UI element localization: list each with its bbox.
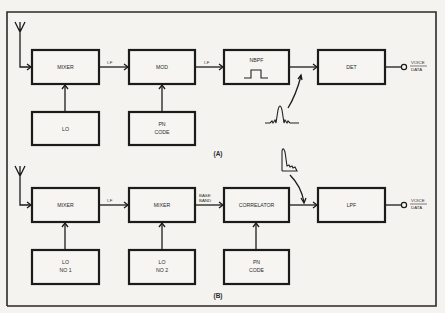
- mod-label: MOD: [156, 64, 168, 70]
- output-data-label: DATA: [411, 67, 422, 72]
- antenna-icon: [15, 22, 31, 70]
- panel-a-caption: (A): [213, 150, 222, 158]
- baseband-label-line2: BAND: [199, 198, 211, 203]
- pn-code-label-line2: CODE: [155, 129, 171, 135]
- pn-code-label-line1: PN: [158, 121, 165, 127]
- correlator-label: CORRELATOR: [239, 202, 275, 208]
- nbpf-block: [224, 50, 289, 84]
- antenna-icon: [15, 166, 31, 208]
- lpf-label: LPF: [347, 202, 357, 208]
- mixer-2-label: MIXER: [154, 202, 171, 208]
- if-label: I-F: [107, 60, 113, 65]
- nbpf-label: NBPF: [250, 57, 264, 63]
- output-data-label: DATA: [411, 205, 422, 210]
- panel-b-caption: (B): [213, 292, 222, 300]
- panel-a: MIXER I-F MOD I-F NBPF DET VOICE DATA LO: [15, 22, 427, 158]
- output-terminal: [401, 202, 406, 207]
- mixer-label: MIXER: [57, 64, 74, 70]
- pn-code-label-line1: PN: [253, 259, 260, 265]
- det-label: DET: [346, 64, 357, 70]
- panel-b: MIXER I-F MIXER BASE BAND CORRELATOR LPF…: [15, 149, 427, 300]
- lo-2-label-line2: NO 2: [156, 267, 168, 273]
- mixer-1-label: MIXER: [57, 202, 74, 208]
- lo-2-label-line1: LO: [159, 259, 166, 265]
- output-voice-label: VOICE: [411, 60, 425, 65]
- if-label: I-F: [204, 60, 210, 65]
- pn-code-label-line2: CODE: [249, 267, 265, 273]
- output-terminal: [401, 64, 406, 69]
- lo-label: LO: [62, 126, 69, 132]
- output-voice-label: VOICE: [411, 198, 425, 203]
- lo-1-label-line2: NO 1: [59, 267, 71, 273]
- spread-spectrum-receiver-diagram: MIXER I-F MOD I-F NBPF DET VOICE DATA LO: [0, 0, 445, 313]
- if-label: I-F: [107, 198, 113, 203]
- lo-1-label-line1: LO: [62, 259, 69, 265]
